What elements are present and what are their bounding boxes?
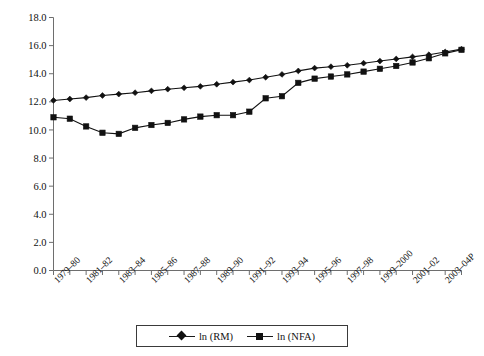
- data-point-marker-rm: [295, 68, 301, 74]
- data-point-marker-nfa: [149, 122, 154, 127]
- data-series-group: [51, 46, 465, 136]
- data-point-marker-rm: [279, 72, 285, 78]
- y-axis-tick-label: 0.0: [33, 265, 46, 276]
- data-point-marker-nfa: [247, 109, 252, 114]
- data-point-marker-rm: [149, 88, 155, 94]
- data-point-marker-rm: [393, 56, 399, 62]
- data-point-marker-nfa: [410, 60, 415, 65]
- y-axis-tick-label: 14.0: [28, 68, 46, 79]
- data-point-marker-rm: [344, 62, 350, 68]
- legend-label-rm: ln (RM): [199, 331, 233, 342]
- data-point-marker-nfa: [116, 131, 121, 136]
- square-marker-icon: [247, 331, 273, 341]
- data-point-marker-nfa: [263, 96, 268, 101]
- data-point-marker-rm: [116, 91, 122, 97]
- chart-container: 0.02.04.06.08.010.012.014.016.018.0 1979…: [0, 0, 484, 356]
- data-point-marker-rm: [67, 96, 73, 102]
- data-point-marker-nfa: [459, 47, 464, 52]
- data-point-marker-nfa: [394, 63, 399, 68]
- data-point-marker-rm: [51, 98, 57, 104]
- y-axis-tick-label: 8.0: [33, 153, 46, 164]
- data-point-marker-nfa: [361, 69, 366, 74]
- y-axis-tick-label: 12.0: [28, 96, 46, 107]
- series-line-rm: [54, 49, 462, 100]
- data-point-marker-rm: [83, 95, 89, 101]
- y-axis-tick-label: 16.0: [28, 40, 46, 51]
- data-point-marker-nfa: [181, 117, 186, 122]
- legend-entry-nfa: ln (NFA): [247, 331, 315, 342]
- data-point-marker-rm: [312, 65, 318, 71]
- data-point-marker-nfa: [214, 112, 219, 117]
- legend-entry-rm: ln (RM): [169, 331, 233, 342]
- data-point-marker-nfa: [165, 120, 170, 125]
- data-point-marker-nfa: [328, 74, 333, 79]
- data-point-marker-rm: [181, 85, 187, 91]
- data-point-marker-rm: [197, 83, 203, 89]
- series-line-nfa: [54, 50, 462, 134]
- data-point-marker-rm: [100, 93, 106, 99]
- y-axis: 0.02.04.06.08.010.012.014.016.018.0: [28, 12, 53, 276]
- y-axis-tick-label: 6.0: [33, 181, 46, 192]
- data-point-marker-rm: [377, 58, 383, 64]
- data-point-marker-nfa: [345, 72, 350, 77]
- data-point-marker-rm: [361, 60, 367, 66]
- y-axis-tick-label: 2.0: [33, 237, 46, 248]
- data-point-marker-nfa: [426, 56, 431, 61]
- y-axis-tick-label: 18.0: [28, 12, 46, 23]
- chart-legend: ln (RM) ln (NFA): [136, 325, 348, 347]
- data-point-marker-nfa: [230, 112, 235, 117]
- y-axis-tick-label: 10.0: [28, 125, 46, 136]
- data-point-marker-rm: [132, 90, 138, 96]
- data-point-marker-nfa: [198, 114, 203, 119]
- data-point-marker-nfa: [377, 66, 382, 71]
- data-point-marker-nfa: [296, 80, 301, 85]
- chart-plot-area: 0.02.04.06.08.010.012.014.016.018.0: [0, 0, 484, 356]
- data-point-marker-rm: [165, 86, 171, 92]
- legend-label-nfa: ln (NFA): [277, 331, 315, 342]
- data-point-marker-nfa: [51, 115, 56, 120]
- data-point-marker-rm: [230, 79, 236, 85]
- data-point-marker-rm: [410, 54, 416, 60]
- data-point-marker-nfa: [132, 125, 137, 130]
- data-point-marker-rm: [328, 64, 334, 70]
- y-axis-tick-label: 4.0: [33, 209, 46, 220]
- data-point-marker-nfa: [442, 51, 447, 56]
- data-point-marker-nfa: [312, 76, 317, 81]
- data-point-marker-nfa: [67, 116, 72, 121]
- data-point-marker-rm: [246, 77, 252, 83]
- data-point-marker-rm: [263, 74, 269, 80]
- data-point-marker-nfa: [100, 130, 105, 135]
- diamond-marker-icon: [169, 331, 195, 341]
- data-point-marker-rm: [214, 81, 220, 87]
- data-point-marker-nfa: [279, 94, 284, 99]
- data-point-marker-nfa: [83, 124, 88, 129]
